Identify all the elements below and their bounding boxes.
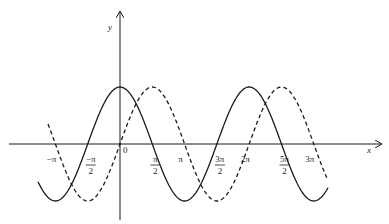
x-tick-label: 5π2 (279, 154, 289, 176)
x-tick-label: π2 (150, 154, 160, 176)
svg-text:0: 0 (123, 145, 128, 155)
svg-text:π: π (153, 154, 158, 164)
svg-text:−π: −π (86, 154, 96, 164)
x-tick-labels: −π−π20π2π3π22π5π23π (47, 145, 315, 176)
svg-text:2: 2 (218, 166, 223, 176)
x-tick-label: π (178, 154, 183, 164)
svg-text:5π: 5π (280, 154, 290, 164)
svg-text:2: 2 (153, 166, 158, 176)
x-tick-label: 2π (241, 154, 251, 164)
x-tick-label: 3π (305, 154, 315, 164)
x-tick-label: 0 (123, 145, 128, 155)
svg-text:π: π (178, 154, 183, 164)
y-axis-label: y (107, 22, 112, 32)
svg-text:−π: −π (47, 154, 57, 164)
svg-text:2: 2 (88, 166, 93, 176)
svg-text:2π: 2π (241, 154, 251, 164)
x-tick-label: −π2 (86, 154, 96, 176)
svg-text:2: 2 (282, 166, 287, 176)
x-axis-label: x (366, 145, 371, 155)
svg-text:3π: 3π (215, 154, 225, 164)
svg-text:3π: 3π (305, 154, 315, 164)
x-tick-label: 3π2 (215, 154, 225, 176)
chart-canvas: y x −π−π20π2π3π22π5π23π (0, 0, 389, 224)
x-tick-label: −π (47, 154, 57, 164)
